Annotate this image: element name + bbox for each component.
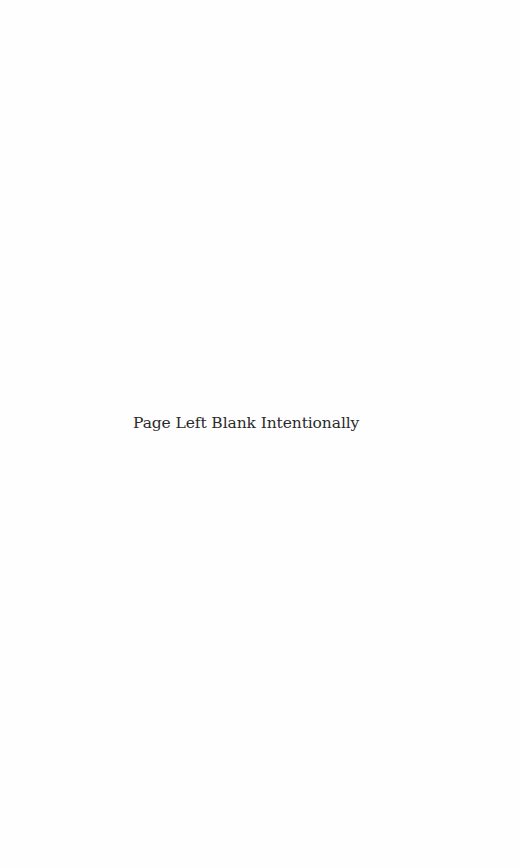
- blank-page-notice: Page Left Blank Intentionally: [133, 413, 359, 433]
- document-page: Page Left Blank Intentionally: [0, 0, 519, 868]
